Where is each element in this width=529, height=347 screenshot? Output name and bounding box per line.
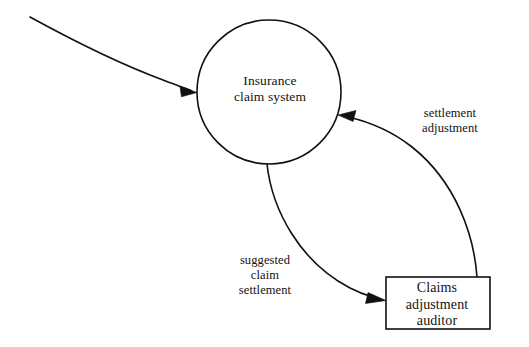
process-circle-insurance-claim-system bbox=[197, 20, 341, 164]
flow-suggested-claim-settlement-arrowhead bbox=[366, 293, 387, 304]
flow-suggested-claim-settlement bbox=[267, 164, 386, 304]
flow-settlement-adjustment bbox=[338, 111, 477, 278]
flow-settlement-adjustment-arrowhead bbox=[338, 111, 356, 122]
flow-settlement-adjustment-line bbox=[348, 117, 477, 277]
data-flow-diagram: Insurance claim system Claims adjustment… bbox=[0, 0, 529, 347]
flow-unlabeled-input-arrowhead bbox=[180, 86, 197, 97]
external-entity-box-claims-adjustment-auditor bbox=[386, 277, 490, 329]
flow-suggested-claim-settlement-line bbox=[267, 164, 374, 298]
flow-unlabeled-input bbox=[30, 17, 197, 97]
flow-unlabeled-input-line bbox=[30, 17, 191, 91]
diagram-canvas bbox=[0, 0, 529, 347]
